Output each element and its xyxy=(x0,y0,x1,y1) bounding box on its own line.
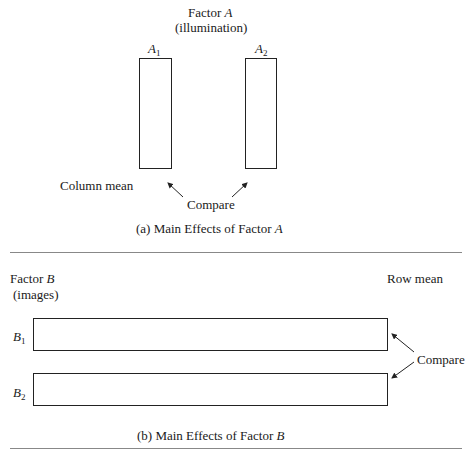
arrow-icon xyxy=(168,183,183,197)
arrow-icon xyxy=(392,334,414,352)
arrow-icon xyxy=(232,183,247,197)
arrow-icon xyxy=(392,362,414,378)
